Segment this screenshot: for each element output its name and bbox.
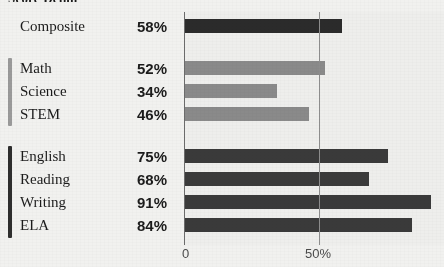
row-label-ela: ELA <box>20 217 49 234</box>
row-label-math: Math <box>20 60 52 77</box>
x-tick-50: 50% <box>305 246 331 261</box>
bar-reading <box>185 172 369 186</box>
bar-english <box>185 149 388 163</box>
plot-area <box>184 12 444 245</box>
page-title: Score Detail <box>8 0 208 2</box>
row-value-math: 52% <box>137 60 167 77</box>
group-bracket-ela <box>8 146 12 238</box>
score-detail-chart: Score Detail Composite58%Math52%Science3… <box>0 0 444 267</box>
bar-science <box>185 84 277 98</box>
x-tick-0: 0 <box>182 246 189 261</box>
row-value-stem: 46% <box>137 106 167 123</box>
row-value-ela: 84% <box>137 217 167 234</box>
bar-math <box>185 61 325 75</box>
row-label-reading: Reading <box>20 171 70 188</box>
row-value-science: 34% <box>137 83 167 100</box>
row-label-composite: Composite <box>20 18 85 35</box>
row-value-reading: 68% <box>137 171 167 188</box>
bar-ela <box>185 218 412 232</box>
row-value-english: 75% <box>137 148 167 165</box>
row-label-english: English <box>20 148 66 165</box>
row-label-stem: STEM <box>20 106 60 123</box>
y-axis-line <box>184 12 185 245</box>
row-label-writing: Writing <box>20 194 66 211</box>
row-label-science: Science <box>20 83 67 100</box>
row-value-writing: 91% <box>137 194 167 211</box>
gridline-50 <box>319 12 320 245</box>
row-value-composite: 58% <box>137 18 167 35</box>
bar-stem <box>185 107 309 121</box>
bar-writing <box>185 195 431 209</box>
group-bracket-stem <box>8 58 12 126</box>
